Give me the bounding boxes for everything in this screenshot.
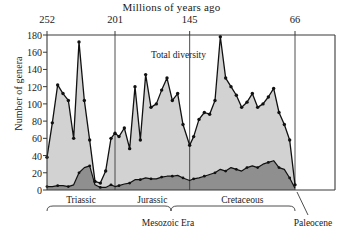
data-point-holdover	[192, 177, 195, 180]
data-point-holdover	[110, 183, 113, 186]
data-point-total	[165, 76, 168, 79]
data-point-total	[251, 92, 254, 95]
data-point-total	[117, 135, 120, 138]
data-point-holdover	[203, 175, 206, 178]
era-bracket	[47, 206, 295, 211]
data-point-total	[181, 123, 184, 126]
data-point-holdover	[128, 182, 131, 185]
data-point-holdover	[67, 185, 70, 188]
data-point-total	[123, 126, 126, 129]
data-point-total	[149, 106, 152, 109]
data-point-total	[72, 137, 75, 140]
data-point-holdover	[288, 177, 291, 180]
chart-plot-area	[0, 0, 343, 237]
data-point-total	[224, 76, 227, 79]
data-point-total	[213, 99, 216, 102]
data-point-total	[176, 92, 179, 95]
data-point-holdover	[267, 161, 270, 164]
data-point-total	[245, 100, 248, 103]
data-point-holdover	[171, 175, 174, 178]
data-point-total	[83, 99, 86, 102]
data-point-total	[133, 85, 136, 88]
data-point-total	[56, 83, 59, 86]
data-point-holdover	[118, 184, 121, 187]
data-point-total	[67, 99, 70, 102]
data-point-total	[256, 106, 259, 109]
data-point-holdover	[224, 170, 227, 173]
data-point-total	[188, 144, 191, 147]
data-point-total	[272, 87, 275, 90]
data-point-holdover	[150, 177, 153, 180]
data-point-total	[51, 121, 54, 124]
data-point-holdover	[278, 166, 281, 169]
data-point-total	[160, 88, 163, 91]
chart-figure: Millions of years ago Number of genera 2…	[0, 0, 343, 237]
data-point-total	[88, 138, 91, 141]
data-point-total	[261, 102, 264, 105]
data-point-total	[277, 111, 280, 114]
data-point-holdover	[160, 176, 163, 179]
data-point-holdover	[78, 171, 81, 174]
data-point-holdover	[235, 168, 238, 171]
data-point-total	[99, 181, 102, 184]
data-point-total	[293, 183, 296, 186]
data-point-holdover	[56, 184, 59, 187]
data-point-total	[113, 131, 116, 134]
data-point-holdover	[246, 166, 249, 169]
data-point-total	[229, 85, 232, 88]
paleocene-leader-line	[297, 192, 308, 215]
data-point-total	[128, 147, 131, 150]
data-point-total	[283, 123, 286, 126]
data-point-total	[77, 40, 80, 43]
data-point-total	[208, 113, 211, 116]
data-point-total	[93, 180, 96, 183]
data-point-holdover	[214, 171, 217, 174]
data-point-total	[240, 106, 243, 109]
data-point-holdover	[99, 186, 102, 189]
data-point-total	[144, 73, 147, 76]
data-point-total	[203, 111, 206, 114]
data-point-total	[192, 135, 195, 138]
data-point-holdover	[182, 177, 185, 180]
data-point-total	[155, 102, 158, 105]
area-new-genera	[47, 37, 295, 189]
data-point-total	[197, 118, 200, 121]
data-point-holdover	[256, 166, 259, 169]
data-point-holdover	[139, 178, 142, 181]
data-point-total	[267, 95, 270, 98]
data-point-total	[139, 138, 142, 141]
data-point-total	[61, 92, 64, 95]
data-point-total	[288, 138, 291, 141]
data-point-total	[235, 94, 238, 97]
data-point-total	[109, 137, 112, 140]
data-point-holdover	[88, 164, 91, 167]
data-point-total	[171, 99, 174, 102]
data-point-total	[104, 169, 107, 172]
